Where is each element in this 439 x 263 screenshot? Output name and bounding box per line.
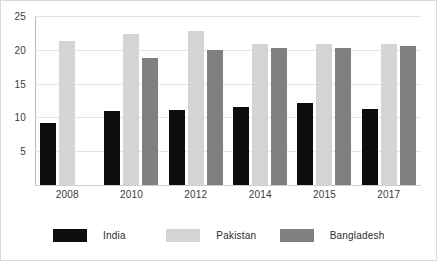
- x-axis-tick-label: 2015: [292, 189, 356, 200]
- bar-bangladesh-2010: [142, 58, 158, 185]
- legend-swatch-bangladesh: [280, 229, 314, 242]
- bar-group-2008: [35, 16, 99, 185]
- bar-india-2017: [362, 109, 378, 185]
- bar-india-2015: [297, 103, 313, 185]
- bar-chart: 252015105 200820102012201420152017 India…: [0, 0, 437, 261]
- y-axis-tick-label: 20: [14, 44, 26, 55]
- x-axis-baseline: [35, 185, 421, 186]
- y-axis-tick-label: 25: [14, 11, 26, 22]
- legend-item-bangladesh: Bangladesh: [280, 229, 393, 242]
- legend-label: Pakistan: [216, 230, 256, 241]
- bar-bangladesh-2017: [400, 46, 416, 185]
- chart-legend: IndiaPakistanBangladesh: [53, 229, 393, 242]
- legend-swatch-pakistan: [166, 229, 200, 242]
- x-axis-tick-label: 2010: [99, 189, 163, 200]
- legend-swatch-india: [53, 229, 87, 242]
- y-axis-tick-label: 5: [20, 146, 26, 157]
- legend-label: India: [103, 230, 126, 241]
- bar-pakistan-2010: [123, 34, 139, 185]
- bar-groups: [35, 16, 421, 185]
- bar-pakistan-2008: [59, 41, 75, 185]
- bar-group-2012: [164, 16, 228, 185]
- bar-pakistan-2012: [188, 31, 204, 185]
- bar-bangladesh-2012: [207, 50, 223, 185]
- legend-item-india: India: [53, 229, 166, 242]
- bar-india-2008: [40, 123, 56, 185]
- x-axis-tick-label: 2014: [228, 189, 292, 200]
- y-axis-tick-label: 15: [14, 78, 26, 89]
- bar-india-2012: [169, 110, 185, 185]
- bar-india-2014: [233, 107, 249, 185]
- x-axis-tick-label: 2008: [35, 189, 99, 200]
- bar-group-2014: [228, 16, 292, 185]
- bar-bangladesh-2014: [271, 48, 287, 185]
- bar-pakistan-2014: [252, 44, 268, 185]
- y-axis-tick-label: 10: [14, 112, 26, 123]
- legend-item-pakistan: Pakistan: [166, 229, 279, 242]
- plot-area: [35, 16, 421, 185]
- y-axis-tick-labels: 252015105: [1, 16, 31, 185]
- bar-group-2015: [292, 16, 356, 185]
- bar-pakistan-2017: [381, 44, 397, 185]
- bar-bangladesh-2015: [335, 48, 351, 185]
- bar-pakistan-2015: [316, 44, 332, 185]
- x-axis-tick-label: 2012: [164, 189, 228, 200]
- bar-india-2010: [104, 111, 120, 185]
- x-axis-tick-labels: 200820102012201420152017: [35, 189, 421, 200]
- bar-group-2010: [99, 16, 163, 185]
- x-axis-tick-label: 2017: [357, 189, 421, 200]
- legend-label: Bangladesh: [330, 230, 385, 241]
- bar-group-2017: [357, 16, 421, 185]
